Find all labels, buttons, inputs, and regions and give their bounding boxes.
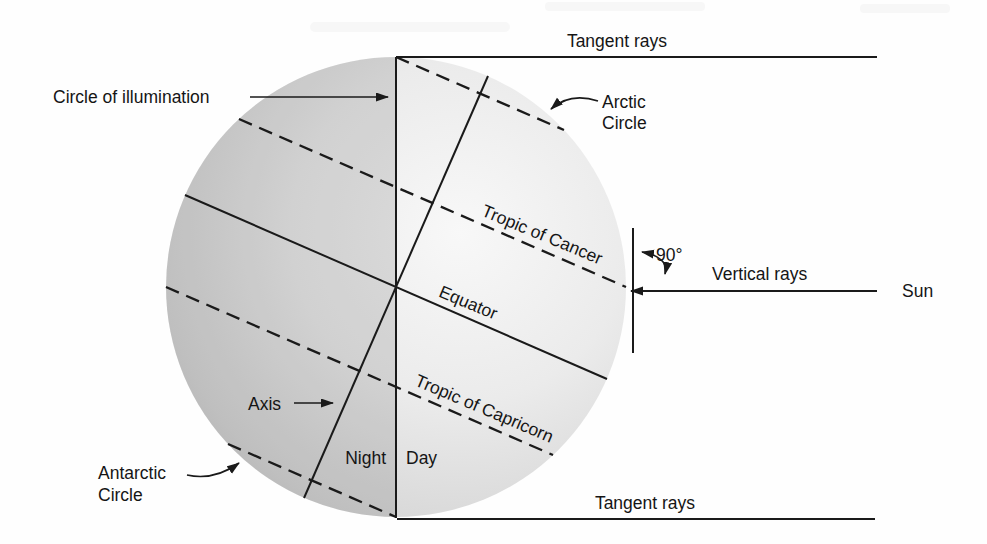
- label-antarctic-circle: Antarctic Circle: [98, 463, 171, 505]
- label-tangent-rays-bottom: Tangent rays: [595, 493, 695, 513]
- arctic-circle-arrow: [551, 98, 598, 109]
- label-tangent-rays-top: Tangent rays: [567, 31, 667, 51]
- label-day: Day: [406, 448, 437, 468]
- label-axis: Axis: [248, 394, 281, 414]
- label-night: Night: [345, 448, 386, 468]
- figure-canvas: Tangent rays Circle of illumination Arct…: [0, 0, 987, 544]
- antarctic-circle-arrow: [187, 463, 239, 477]
- label-circle-of-illumination: Circle of illumination: [53, 87, 210, 107]
- label-vertical-rays: Vertical rays: [712, 264, 808, 284]
- label-sun: Sun: [902, 281, 933, 301]
- label-90-degrees: 90°: [656, 245, 682, 265]
- earth-illumination-diagram: Tangent rays Circle of illumination Arct…: [0, 0, 987, 544]
- label-arctic-circle: Arctic Circle: [602, 92, 651, 133]
- page-bleed-marks: [310, 2, 950, 32]
